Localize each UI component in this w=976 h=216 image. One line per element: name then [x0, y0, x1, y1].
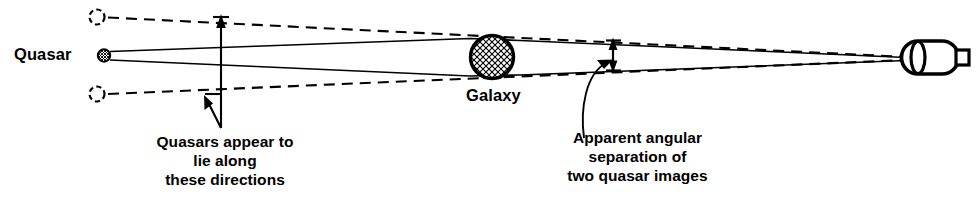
telescope-eyepiece — [956, 50, 969, 65]
telescope-aperture — [911, 42, 925, 74]
figure-canvas: Quasar Galaxy Quasars appear to lie alon… — [0, 0, 976, 216]
caption-angular-separation: Apparent angular separation of two quasa… — [530, 128, 745, 186]
galaxy-lens — [471, 36, 514, 79]
observer-telescope — [902, 41, 970, 74]
apparent-quasar-image-lower-icon — [90, 87, 105, 102]
direction-pointer-arrow — [204, 14, 229, 128]
apparent-quasar-image-upper-icon — [90, 10, 105, 25]
quasar-source-marker — [98, 49, 110, 61]
galaxy-label: Galaxy — [466, 86, 521, 105]
caption-quasar-directions: Quasars appear to lie along these direct… — [110, 132, 340, 190]
quasar-label: Quasar — [14, 45, 71, 64]
